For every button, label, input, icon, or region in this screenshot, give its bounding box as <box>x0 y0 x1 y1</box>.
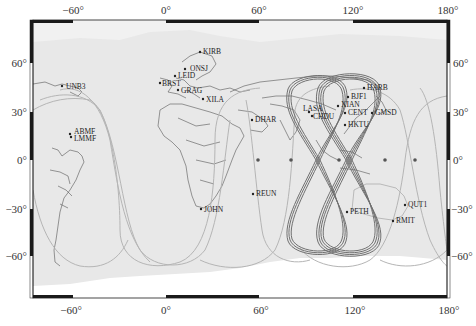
right-tick-label: −60° <box>451 250 473 262</box>
left-tick-label: −30° <box>5 203 27 215</box>
station-GMSD: GMSD <box>371 108 397 117</box>
svg-text:BJF1: BJF1 <box>351 92 367 101</box>
svg-text:HKTU: HKTU <box>348 120 369 129</box>
left-tick-label: 60° <box>12 57 27 69</box>
left-tick-label: −60° <box>5 250 27 262</box>
station-KIRB: KIRB <box>199 47 221 56</box>
station-LMMF: LMMF <box>70 134 96 143</box>
svg-text:XILA: XILA <box>206 95 224 104</box>
station-BRST: BRST <box>159 79 181 88</box>
station-QUT1: QUT1 <box>404 200 428 209</box>
svg-text:CENT: CENT <box>348 108 368 117</box>
gnss-ground-track-map: KIRB ONSJ LEID BRST GRAG XILA UNB3 ABMF … <box>0 0 476 326</box>
station-DHAR: DHAR <box>251 115 276 124</box>
svg-text:PETH: PETH <box>350 207 369 216</box>
svg-text:RMIT: RMIT <box>396 216 415 225</box>
geo-satellite-marker <box>256 158 260 162</box>
bottom-axis-labels: −60° 0° 60° 120° 180° <box>60 304 459 316</box>
left-tick-label: 0° <box>17 154 27 166</box>
svg-text:LMMF: LMMF <box>74 134 96 143</box>
svg-text:JOHN: JOHN <box>204 205 224 214</box>
svg-text:GRAG: GRAG <box>181 86 203 95</box>
station-PETH: PETH <box>346 207 370 216</box>
top-tick-label: 120° <box>343 4 364 16</box>
top-tick-label: 0° <box>161 4 171 16</box>
station-JOHN: JOHN <box>200 205 224 214</box>
svg-text:UNB3: UNB3 <box>66 82 86 91</box>
geo-satellite-marker <box>289 158 293 162</box>
geo-satellite-marker <box>337 158 341 162</box>
station-HARB: HARB <box>363 83 388 92</box>
bottom-tick-label: 0° <box>161 304 171 316</box>
svg-text:CHDU: CHDU <box>313 112 335 121</box>
svg-text:QUT1: QUT1 <box>408 200 427 209</box>
right-tick-label: −30° <box>451 203 473 215</box>
right-tick-label: 30° <box>453 106 468 118</box>
svg-text:BRST: BRST <box>162 79 181 88</box>
top-tick-label: −60° <box>62 4 84 16</box>
station-HKTU: HKTU <box>344 120 370 129</box>
top-axis-labels: −60° 0° 60° 120° 180° <box>62 4 458 16</box>
top-tick-label: 60° <box>251 4 266 16</box>
svg-text:REUN: REUN <box>256 189 277 198</box>
station-REUN: REUN <box>252 189 277 198</box>
station-CHDU: CHDU <box>311 112 335 121</box>
geo-satellite-marker <box>413 158 417 162</box>
svg-text:DHAR: DHAR <box>255 115 276 124</box>
right-tick-label: 60° <box>453 57 468 69</box>
bottom-tick-label: −60° <box>60 304 82 316</box>
right-axis-labels: 60° 30° 0° −30° −60° <box>451 57 473 262</box>
station-RMIT: RMIT <box>392 216 415 225</box>
station-XILA: XILA <box>202 95 225 104</box>
top-tick-label: 180° <box>438 4 459 16</box>
bottom-tick-label: 120° <box>345 304 366 316</box>
svg-text:GMSD: GMSD <box>375 108 397 117</box>
geo-satellite-marker <box>383 158 387 162</box>
station-GRAG: GRAG <box>177 86 203 95</box>
bottom-tick-label: 60° <box>253 304 268 316</box>
svg-text:KIRB: KIRB <box>203 47 221 56</box>
station-CENT: CENT <box>344 108 368 117</box>
right-tick-label: 0° <box>453 154 463 166</box>
svg-text:HARB: HARB <box>367 83 388 92</box>
left-axis-labels: 60° 30° 0° −30° −60° <box>5 57 27 262</box>
bottom-tick-label: 180° <box>439 304 460 316</box>
left-tick-label: 30° <box>12 106 27 118</box>
